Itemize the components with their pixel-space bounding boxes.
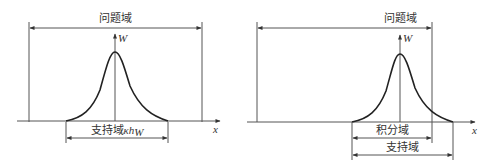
diagram-canvas: 问题域 x W 支持域κhW 问题域 x W 积分域 支持域 bbox=[0, 0, 493, 167]
support-domain-label: 支持域 bbox=[386, 140, 419, 154]
left-panel: 问题域 x W 支持域κhW bbox=[17, 12, 220, 143]
problem-domain-label: 问题域 bbox=[384, 12, 417, 25]
integration-domain-label: 积分域 bbox=[376, 124, 409, 137]
right-panel: 问题域 x W 积分域 支持域 bbox=[247, 12, 477, 160]
x-axis-label: x bbox=[471, 124, 477, 136]
x-axis-label: x bbox=[212, 123, 218, 135]
support-domain-label: 支持域κhW bbox=[91, 123, 145, 138]
problem-domain-label: 问题域 bbox=[99, 12, 132, 25]
kernel-function-curve bbox=[66, 52, 168, 121]
w-axis-label: W bbox=[118, 32, 128, 44]
w-axis-label: W bbox=[403, 32, 413, 44]
kernel-function-curve bbox=[352, 54, 453, 122]
